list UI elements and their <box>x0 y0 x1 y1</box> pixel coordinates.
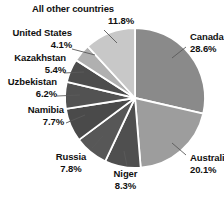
slice-label-name: Kazakhstan <box>0 52 66 64</box>
slice-label-name: Uzbekistan <box>0 76 57 88</box>
slice-label-name: Niger <box>103 168 148 180</box>
slice-label-kazakhstan: Kazakhstan 5.4% <box>0 52 66 75</box>
slice-label-value: 20.1% <box>190 164 224 176</box>
slice-label-uzbekistan: Uzbekistan 6.2% <box>0 76 57 99</box>
slice-label-namibia: Namibia 7.7% <box>2 104 64 127</box>
slice-label-value: 11.8% <box>12 15 134 27</box>
slice-label-value: 7.8% <box>47 163 95 175</box>
slice-label-value: 5.4% <box>0 64 66 76</box>
slice-label-name: Australia <box>190 152 224 164</box>
slice-label-australia: Australia 20.1% <box>190 152 224 175</box>
slice-label-all-other-countries: All other countries 11.8% <box>12 3 134 26</box>
slice-label-name: Canada <box>190 31 224 43</box>
pie-chart: All other countries 11.8% United States … <box>0 0 224 207</box>
slice-label-united-states: United States 4.1% <box>0 27 72 50</box>
slice-label-russia: Russia 7.8% <box>47 151 95 174</box>
slice-label-value: 8.3% <box>103 180 148 192</box>
slice-label-name: All other countries <box>12 3 134 15</box>
slice-label-value: 28.6% <box>190 43 224 55</box>
slice-label-canada: Canada 28.6% <box>190 31 224 54</box>
slice-label-value: 7.7% <box>2 116 64 128</box>
slice-label-value: 6.2% <box>0 88 57 100</box>
slice-label-niger: Niger 8.3% <box>103 168 148 191</box>
slice-label-value: 4.1% <box>0 39 72 51</box>
slice-label-name: United States <box>0 27 72 39</box>
slice-label-name: Russia <box>47 151 95 163</box>
slice-label-name: Namibia <box>2 104 64 116</box>
